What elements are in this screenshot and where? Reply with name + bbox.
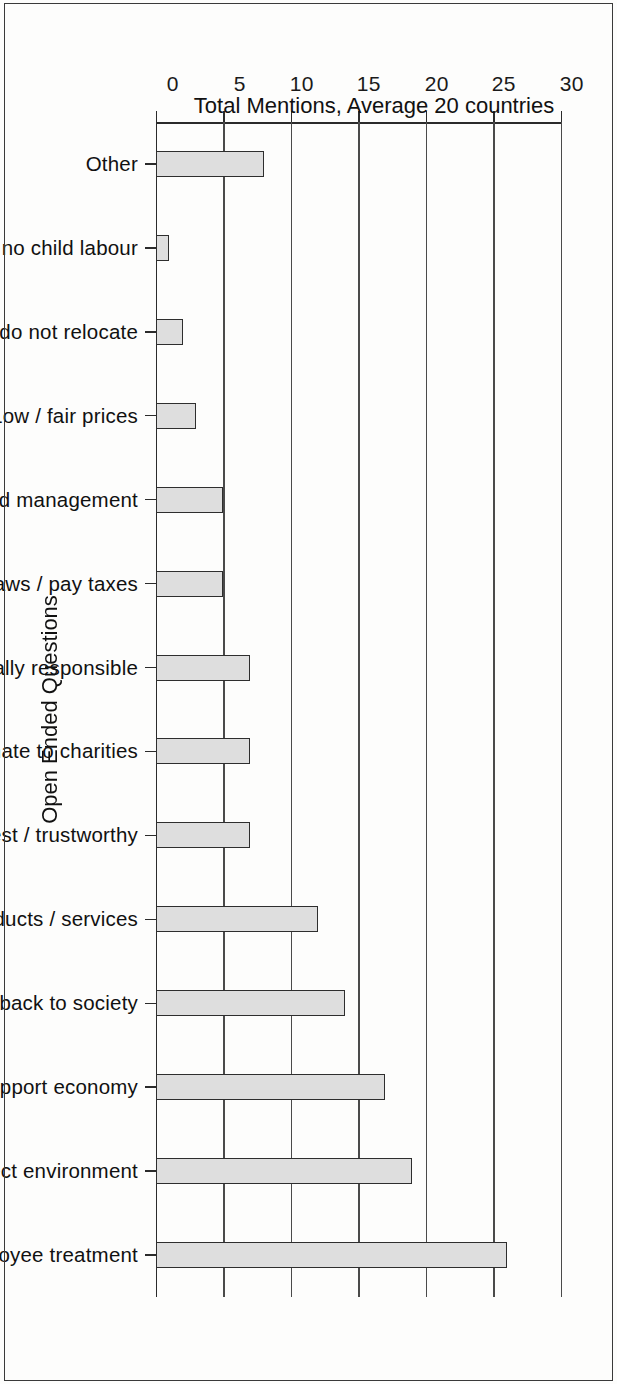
category-axis-tick — [145, 331, 156, 332]
value-axis-tick-label: 10 — [268, 73, 314, 94]
bar-slot: Donate to charities — [156, 710, 561, 794]
category-axis-tick — [145, 1086, 156, 1087]
category-axis-tick — [145, 163, 156, 164]
bar — [156, 1242, 507, 1268]
value-axis-tick-label: 15 — [335, 73, 381, 94]
category-axis-tick — [145, 919, 156, 920]
bar-slot: Make profit / good management — [156, 458, 561, 542]
bar — [156, 319, 183, 345]
category-axis-label: Be honest / trustworthy — [0, 825, 138, 846]
category-axis-label: Make profit / good management — [0, 489, 138, 510]
value-axis-tick-label: 0 — [133, 73, 179, 94]
bar-slot: Be honest / trustworthy — [156, 793, 561, 877]
category-axis-label: Show concern / be socially responsible — [0, 657, 138, 678]
bar — [156, 151, 264, 177]
bar-series: OtherProtect human rights / no child lab… — [156, 122, 561, 1297]
category-axis-tick — [145, 751, 156, 752]
bar-slot: Obey laws / pay taxes — [156, 542, 561, 626]
category-axis-label: Create jobs / support economy — [0, 1077, 138, 1098]
category-axis-label: Good quality / safe products / services — [0, 909, 138, 930]
category-axis-tick — [145, 667, 156, 668]
value-axis-tick-label: 5 — [200, 73, 246, 94]
x-axis-title: Open Ended Questions — [37, 122, 63, 1297]
chart-canvas: 051015202530 OtherProtect human rights /… — [0, 0, 617, 1384]
category-axis-tick — [145, 1170, 156, 1171]
category-axis-tick — [145, 499, 156, 500]
category-axis-label: Other — [85, 154, 137, 175]
category-axis-tick — [145, 415, 156, 416]
bar — [156, 655, 251, 681]
category-axis-label: Stay in country / do not relocate — [0, 322, 138, 343]
y-axis-title: Total Mentions, Average 20 countries — [193, 93, 553, 119]
bar-slot: Protect human rights / no child labour — [156, 206, 561, 290]
value-axis-tick — [561, 111, 562, 122]
category-axis-label: Fair employee treatment — [0, 1245, 138, 1266]
bar-slot: Other — [156, 122, 561, 206]
bar — [156, 1074, 386, 1100]
bar — [156, 403, 197, 429]
bar-slot: Create jobs / support economy — [156, 1045, 561, 1129]
category-axis-tick — [145, 835, 156, 836]
value-axis-tick-label: 30 — [538, 73, 584, 94]
bar-slot: Show concern / be socially responsible — [156, 626, 561, 710]
bar-slot: Provide social services / give back to s… — [156, 961, 561, 1045]
bar-slot: Stay in country / do not relocate — [156, 290, 561, 374]
bar — [156, 571, 224, 597]
scanned-page: 051015202530 OtherProtect human rights /… — [0, 0, 617, 1384]
bar — [156, 738, 251, 764]
bar — [156, 235, 170, 261]
bar-slot: Low / fair prices — [156, 374, 561, 458]
category-axis-tick — [145, 247, 156, 248]
category-axis-label: Protect environment — [0, 1161, 138, 1182]
rotated-chart-stage: 051015202530 OtherProtect human rights /… — [29, 22, 589, 1362]
bar — [156, 487, 224, 513]
bar — [156, 990, 345, 1016]
category-axis-label: Low / fair prices — [0, 405, 138, 426]
category-axis-tick — [145, 1254, 156, 1255]
value-axis-tick-label: 25 — [470, 73, 516, 94]
bar — [156, 1158, 413, 1184]
bar-slot: Protect environment — [156, 1129, 561, 1213]
plot-area: 051015202530 OtherProtect human rights /… — [156, 122, 561, 1297]
category-axis-label: Donate to charities — [0, 741, 138, 762]
bar — [156, 906, 318, 932]
category-axis-tick — [145, 583, 156, 584]
category-axis-label: Obey laws / pay taxes — [0, 573, 138, 594]
bar — [156, 822, 251, 848]
category-axis-label: Provide social services / give back to s… — [0, 993, 138, 1014]
value-axis-tick-label: 20 — [403, 73, 449, 94]
category-axis-label: Protect human rights / no child labour — [0, 238, 138, 259]
category-axis-tick — [145, 1003, 156, 1004]
value-axis-tick — [156, 111, 157, 122]
bar-slot: Fair employee treatment — [156, 1213, 561, 1297]
bar-slot: Good quality / safe products / services — [156, 877, 561, 961]
